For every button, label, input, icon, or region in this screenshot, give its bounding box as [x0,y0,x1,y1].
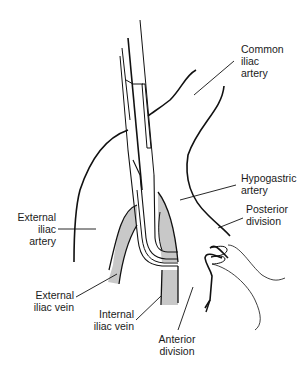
label-external-iliac-vein: External iliac vein [28,289,74,313]
hypogastric-artery-outline [187,86,230,236]
diagram-canvas: Common iliac artery Hypogastric artery P… [0,0,307,372]
leader-external-iliac-vein [76,274,117,297]
label-common-iliac-artery: Common iliac artery [241,43,284,79]
leader-anterior [178,287,193,330]
label-posterior-division: Posterior division [246,203,288,227]
label-anterior-division: Anterior division [152,333,202,357]
leader-internal-iliac-vein [136,296,161,320]
external-iliac-vein-shape [108,205,137,284]
leader-common-iliac [194,61,234,95]
leader-posterior [218,218,243,228]
leader-hypogastric [180,185,236,200]
label-hypogastric-artery: Hypogastric artery [241,172,296,196]
posterior-division-outline [205,254,222,308]
label-internal-iliac-vein: Internal iliac vein [88,308,134,332]
label-external-iliac-artery: External iliac artery [14,211,56,247]
external-iliac-artery-outline [74,70,196,262]
